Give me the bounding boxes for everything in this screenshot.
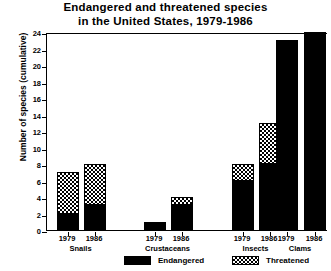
- y-axis-tick: [42, 183, 47, 184]
- y-axis-tick-label: 10: [17, 146, 41, 154]
- chart-legend: Endangered Threatened: [0, 256, 331, 270]
- y-axis-tick-label: 24: [17, 30, 41, 38]
- y-axis-tick: [42, 150, 47, 151]
- chart-title: Endangered and threatened species in the…: [0, 1, 331, 28]
- legend-label-threatened: Threatened: [266, 256, 309, 265]
- bar-clams-1979: [276, 40, 298, 230]
- checkered-swatch-icon: [232, 256, 259, 265]
- bar-segment-endangered: [276, 40, 298, 230]
- bar-segment-endangered: [57, 214, 79, 231]
- y-axis-tick: [42, 51, 47, 52]
- x-axis-year-label: 1986: [74, 234, 114, 243]
- x-axis-group-label-snails: Snails: [36, 244, 126, 253]
- chart-title-line-2: in the United States, 1979-1986: [0, 15, 331, 29]
- y-axis-tick-label: 22: [17, 47, 41, 55]
- y-axis-tick: [42, 232, 47, 233]
- y-axis-tick: [42, 199, 47, 200]
- x-axis-labels: 19791986197919861979198619791986SnailsCr…: [0, 234, 331, 258]
- bar-crustaceans-1986: [171, 197, 193, 230]
- bar-segment-threatened: [171, 197, 193, 205]
- y-axis-tick-label: 2: [17, 212, 41, 220]
- bar-snails-1986: [84, 164, 106, 230]
- bar-segment-endangered: [144, 222, 166, 230]
- chart-title-line-1: Endangered and threatened species: [0, 1, 331, 15]
- y-axis-tick: [42, 84, 47, 85]
- y-axis-tick-label: 12: [17, 129, 41, 137]
- y-axis-tick-label: 18: [17, 80, 41, 88]
- y-axis-tick: [42, 166, 47, 167]
- legend-label-endangered: Endangered: [158, 256, 204, 265]
- y-axis-tick: [42, 34, 47, 35]
- y-axis-tick-label: 20: [17, 63, 41, 71]
- bar-segment-threatened: [232, 164, 254, 181]
- legend-item-endangered: Endangered: [124, 256, 204, 265]
- y-axis-tick: [42, 117, 47, 118]
- y-axis-tick-label: 8: [17, 162, 41, 170]
- y-axis-tick: [42, 133, 47, 134]
- x-axis-year-label: 1986: [294, 234, 331, 243]
- bar-crustaceans-1979: [144, 222, 166, 230]
- bar-segment-endangered: [304, 32, 326, 230]
- y-axis-tick-label: 16: [17, 96, 41, 104]
- x-axis-group-label-crustaceans: Crustaceans: [123, 244, 213, 253]
- legend-item-threatened: Threatened: [232, 256, 309, 265]
- bar-insects-1979: [232, 164, 254, 230]
- bar-segment-threatened: [84, 164, 106, 205]
- y-axis-tick-label: 4: [17, 195, 41, 203]
- x-axis-group-label-clams: Clams: [255, 244, 331, 253]
- y-axis-tick-label: 6: [17, 179, 41, 187]
- bar-segment-threatened: [57, 172, 79, 213]
- plot-area: 024681012141618202224: [46, 33, 327, 231]
- y-axis-tick: [42, 67, 47, 68]
- y-axis-tick-label: 14: [17, 113, 41, 121]
- bar-segment-endangered: [171, 205, 193, 230]
- x-axis-year-label: 1986: [161, 234, 201, 243]
- y-axis-tick: [42, 100, 47, 101]
- bar-snails-1979: [57, 172, 79, 230]
- y-axis-tick: [42, 216, 47, 217]
- bar-segment-endangered: [232, 181, 254, 231]
- bar-clams-1986: [304, 32, 326, 230]
- solid-black-swatch-icon: [124, 256, 151, 265]
- bar-segment-endangered: [84, 205, 106, 230]
